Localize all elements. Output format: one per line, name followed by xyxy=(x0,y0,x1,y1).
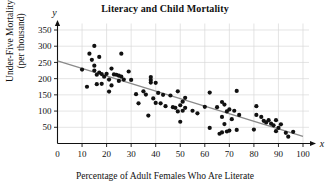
data-point xyxy=(203,105,207,109)
data-point xyxy=(97,55,101,59)
data-point xyxy=(279,122,283,126)
data-point xyxy=(119,52,123,56)
x-tick-label: 30 xyxy=(127,149,137,159)
data-point xyxy=(151,96,155,100)
data-point xyxy=(85,85,89,89)
data-point xyxy=(146,114,150,118)
data-point xyxy=(208,90,212,94)
data-point xyxy=(100,82,104,86)
y-axis-label: Under-Five Mortality (per thousand) xyxy=(5,0,27,101)
y-tick-label: 150 xyxy=(38,90,52,100)
data-point xyxy=(122,78,126,82)
y-axis-label-line1: Under-Five Mortality xyxy=(5,0,15,82)
data-point xyxy=(161,93,165,97)
data-point xyxy=(230,117,234,121)
data-point xyxy=(159,101,163,105)
data-point xyxy=(254,113,258,117)
data-point xyxy=(107,90,111,94)
y-tick-label: 200 xyxy=(38,74,52,84)
data-point xyxy=(284,131,288,135)
y-tick-label: 350 xyxy=(38,25,52,35)
data-point xyxy=(149,80,153,84)
data-point xyxy=(136,101,140,105)
x-tick-label: 90 xyxy=(274,149,284,159)
data-point xyxy=(144,92,148,96)
x-tick-label: 40 xyxy=(151,149,161,159)
data-point xyxy=(154,81,158,85)
data-point xyxy=(156,91,160,95)
x-axis-variable: x xyxy=(319,138,325,149)
x-tick-label: 50 xyxy=(176,149,186,159)
data-point xyxy=(235,128,239,132)
data-point xyxy=(178,120,182,124)
data-point xyxy=(208,126,212,130)
data-point xyxy=(195,111,199,115)
data-point xyxy=(254,104,258,108)
data-point xyxy=(291,130,295,134)
y-axis-label-line2: (per thousand) xyxy=(16,13,26,68)
data-point xyxy=(129,78,133,82)
data-point xyxy=(109,83,113,87)
y-tick-label: 250 xyxy=(38,58,52,68)
data-point xyxy=(181,100,185,104)
data-point xyxy=(232,109,236,113)
data-point xyxy=(92,64,96,68)
x-axis-label: Percentage of Adult Females Who Are Lite… xyxy=(0,171,330,181)
data-point xyxy=(252,127,256,131)
data-point xyxy=(127,69,131,73)
data-point xyxy=(92,44,96,48)
data-point xyxy=(117,79,121,83)
x-tick-label: 10 xyxy=(78,149,88,159)
data-point xyxy=(173,106,177,110)
data-point xyxy=(271,123,275,127)
y-tick-label: 100 xyxy=(38,106,52,116)
data-point xyxy=(222,102,226,106)
data-point xyxy=(267,118,271,122)
data-point xyxy=(87,52,91,56)
data-point xyxy=(105,72,109,76)
data-point xyxy=(109,66,113,70)
scatter-plot: 0102030405060708090100501001502002503003… xyxy=(0,0,330,183)
x-tick-label: 0 xyxy=(55,149,60,159)
data-point xyxy=(176,109,180,113)
x-tick-label: 100 xyxy=(296,149,310,159)
data-point xyxy=(220,115,224,119)
data-point xyxy=(215,105,219,109)
x-tick-label: 60 xyxy=(200,149,210,159)
x-tick-label: 80 xyxy=(249,149,259,159)
data-point xyxy=(107,78,111,82)
data-point xyxy=(90,58,94,62)
data-point xyxy=(176,89,180,93)
data-point xyxy=(286,135,290,139)
data-point xyxy=(227,128,231,132)
data-point xyxy=(178,103,182,107)
data-point xyxy=(163,104,167,108)
data-point xyxy=(154,101,158,105)
data-point xyxy=(222,122,226,126)
x-tick-label: 70 xyxy=(225,149,235,159)
data-point xyxy=(168,93,172,97)
y-tick-label: 300 xyxy=(38,41,52,51)
data-point xyxy=(183,106,187,110)
data-point xyxy=(274,118,278,122)
data-point xyxy=(227,107,231,111)
data-point xyxy=(237,113,241,117)
data-point xyxy=(235,89,239,93)
data-point xyxy=(220,130,224,134)
data-point xyxy=(276,126,280,130)
x-tick-label: 20 xyxy=(102,149,112,159)
y-axis-variable: y xyxy=(51,7,57,18)
data-point xyxy=(95,82,99,86)
axis-ticks: 0102030405060708090100501001502002503003… xyxy=(38,25,310,158)
chart-figure: Literacy and Child Mortality 01020304050… xyxy=(0,0,330,183)
y-tick-label: 50 xyxy=(43,122,53,132)
data-point xyxy=(183,96,187,100)
data-point xyxy=(190,109,194,113)
data-point xyxy=(259,115,263,119)
data-point xyxy=(134,92,138,96)
data-point xyxy=(80,67,84,71)
data-point xyxy=(92,68,96,72)
